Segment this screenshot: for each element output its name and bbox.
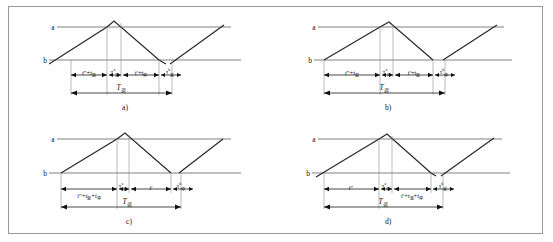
segment-label-4: τb来 [439, 182, 448, 191]
segment-label-4: τb停 [177, 182, 186, 191]
segment-label-4: τb停 [440, 68, 449, 77]
period-label: T调 [379, 84, 388, 94]
panel-caption: d) [385, 217, 391, 226]
segment-label-3: t′+t驱+t停 [401, 193, 423, 201]
level-label-b: b [308, 56, 312, 65]
segment-label-2: τa停 [383, 68, 391, 77]
panel-c-graphic [9, 121, 276, 235]
level-label-a: a [51, 23, 54, 32]
level-label-b: b [43, 56, 47, 65]
panel-caption: c) [126, 217, 132, 226]
waveform [49, 21, 166, 64]
panel-b-graphic [276, 7, 543, 121]
period-label: T调 [378, 198, 387, 208]
panel-d: a b t″ τa停 t′+t驱+t停 τb来 T调 d) [276, 121, 543, 235]
waveform-next [441, 138, 494, 176]
segment-label-3: t′ [149, 185, 152, 192]
segment-label-2: τa来 [119, 182, 127, 191]
waveform [316, 134, 436, 177]
segment-label-1: t″+t驱+t停 [77, 193, 100, 201]
level-label-b: b [43, 169, 47, 178]
segment-label-1: t″+t驱 [345, 70, 359, 78]
panel-a: a b t″+t驱 τa来 t′+t停 τb来 T调 a) [9, 7, 276, 121]
panel-c: a b t″+t驱+t停 τa来 t′ τb停 T调 c) [9, 121, 276, 235]
panel-b: a b t″+t驱 τa停 t′+t驱 τb停 T调 b) [276, 7, 543, 121]
segment-label-1: t″ [349, 185, 354, 192]
segment-label-2: τa停 [382, 182, 390, 191]
waveform-next [443, 25, 497, 60]
level-label-b: b [306, 169, 310, 178]
panel-d-graphic [276, 121, 543, 235]
level-label-a: a [51, 135, 54, 144]
period-label: T调 [122, 198, 131, 208]
panel-caption: a) [122, 103, 128, 112]
waveform-next [179, 139, 223, 173]
segment-label-2: τa来 [111, 68, 119, 77]
level-label-a: a [312, 23, 315, 32]
segment-label-4: τb来 [166, 68, 175, 77]
waveform-next [170, 25, 224, 64]
waveform [324, 22, 433, 60]
figure-border: a b t″+t驱 τa来 t′+t停 τb来 T调 a) [8, 6, 543, 234]
level-label-a: a [312, 135, 315, 144]
segment-label-1: t″+t驱 [82, 70, 96, 78]
period-label: T调 [116, 84, 125, 94]
segment-label-3: t′+t停 [135, 70, 148, 78]
panel-a-graphic [9, 7, 276, 121]
period-dimension [61, 205, 181, 210]
panel-caption: b) [385, 103, 391, 112]
segment-label-3: t′+t驱 [408, 70, 421, 78]
